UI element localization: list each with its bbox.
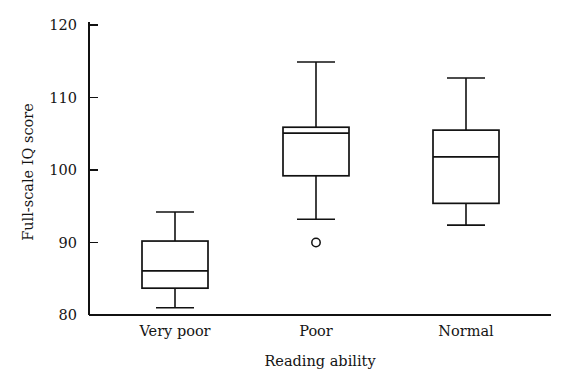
box-group <box>142 62 499 308</box>
category-label: Poor <box>299 323 333 339</box>
boxplot-normal <box>433 78 499 225</box>
category-label: Very poor <box>138 323 210 339</box>
boxplot-poor <box>283 62 349 247</box>
y-tick-label: 90 <box>59 235 77 251</box>
x-axis-title: Reading ability <box>264 353 376 369</box>
y-axis-title: Full-scale IQ score <box>20 103 36 241</box>
box-iqr <box>433 130 499 203</box>
y-tick-label: 120 <box>49 17 77 33</box>
category-label-group: Very poorPoorNormal <box>138 323 494 339</box>
y-tick-label: 80 <box>59 307 77 323</box>
chart-figure: 8090100110120 Very poorPoorNormal Readin… <box>0 0 565 375</box>
box-iqr <box>283 127 349 176</box>
box-iqr <box>142 241 208 288</box>
boxplot-very-poor <box>142 212 208 308</box>
outlier-point <box>312 238 320 246</box>
y-tick-label: 100 <box>49 162 77 178</box>
boxplot-canvas: 8090100110120 Very poorPoorNormal Readin… <box>0 0 565 375</box>
category-label: Normal <box>438 323 494 339</box>
y-tick-label: 110 <box>49 90 77 106</box>
y-tick-group: 8090100110120 <box>49 17 98 323</box>
